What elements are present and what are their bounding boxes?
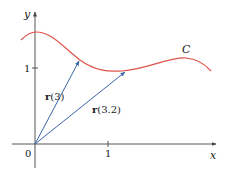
vector-r3-label: r(3) (45, 91, 65, 102)
y-axis-label: y (23, 8, 31, 21)
vector-curve-diagram: y x 0 1 1 C r(3) r(3.2) (0, 0, 230, 172)
y-tick-label: 1 (24, 63, 30, 74)
vector-r3 (35, 61, 79, 144)
x-tick-label: 1 (105, 148, 111, 159)
x-axis-label: x (210, 149, 217, 162)
vector-r3-2-label: r(3.2) (92, 104, 121, 115)
curve-label: C (182, 43, 191, 56)
origin-label: 0 (25, 148, 31, 159)
